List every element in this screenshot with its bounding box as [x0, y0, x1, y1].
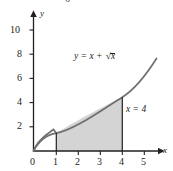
y-tick-label-4: 4	[17, 97, 22, 107]
x-tick-label-0: 0	[30, 157, 35, 167]
x-axis-label: x	[163, 146, 167, 155]
x-tick-label-5: 5	[141, 157, 146, 167]
y-tick-label-10: 10	[10, 25, 20, 35]
y-tick-label-6: 6	[17, 73, 22, 83]
y-tick-label-2: 2	[17, 121, 22, 131]
graph-canvas	[0, 0, 173, 171]
vertical-line-label: x = 4	[126, 105, 146, 115]
curve-equation-lhs: y = x +	[74, 51, 105, 61]
shaded-area	[56, 97, 122, 151]
sqrt-icon: √x	[105, 52, 115, 62]
figure-container: 6	[0, 0, 173, 171]
y-axis-label: y	[40, 9, 44, 18]
y-tick-label-8: 8	[17, 49, 22, 59]
x-tick-label-1: 1	[53, 157, 58, 167]
x-tick-label-4: 4	[119, 157, 124, 167]
x-tick-label-2: 2	[75, 157, 80, 167]
x-tick-label-3: 3	[97, 157, 102, 167]
curve-y-equals-x-plus-sqrt-x	[34, 130, 57, 152]
curve-equation-label: y = x + √x	[74, 52, 115, 62]
